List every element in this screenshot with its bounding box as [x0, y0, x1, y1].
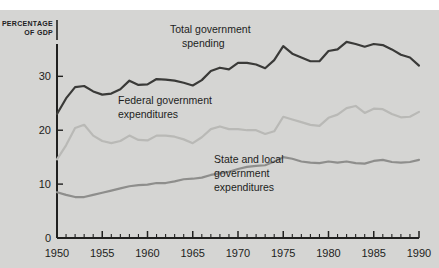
x-tick-label: 1955	[90, 247, 114, 259]
x-tick-label: 1975	[271, 247, 295, 259]
line-chart: PERCENTAGE OF GDP 0102030195019551960196…	[0, 0, 439, 268]
y-tick-label: 20	[39, 124, 51, 136]
annotation-state-line3: expenditures	[214, 181, 274, 193]
chart-svg: PERCENTAGE OF GDP 0102030195019551960196…	[0, 0, 439, 268]
x-tick-label: 1970	[226, 247, 250, 259]
x-tick-label: 1960	[135, 247, 159, 259]
series-line	[57, 42, 419, 114]
y-tick-label: 30	[39, 70, 51, 82]
annotation-total-line1: Total government	[170, 23, 251, 35]
annotation-federal-line2: expenditures	[118, 108, 178, 120]
x-tick-label: 1950	[45, 247, 69, 259]
annotation-federal-line1: Federal government	[118, 94, 212, 106]
x-tick-label: 1965	[181, 247, 205, 259]
annotation-state-line2: government	[214, 167, 270, 179]
annotation-total-line2: spending	[182, 37, 225, 49]
x-tick-label: 1985	[362, 247, 386, 259]
y-tick-label: 0	[45, 232, 51, 244]
x-tick-label: 1990	[407, 247, 431, 259]
series-line	[57, 106, 419, 159]
figure-page: PERCENTAGE OF GDP 0102030195019551960196…	[0, 0, 439, 268]
annotation-state-line1: State and local	[214, 153, 283, 165]
y-axis-title-line1: PERCENTAGE	[2, 20, 53, 27]
y-axis-title-line2: OF GDP	[24, 29, 53, 36]
y-tick-label: 10	[39, 178, 51, 190]
x-tick-label: 1980	[316, 247, 340, 259]
